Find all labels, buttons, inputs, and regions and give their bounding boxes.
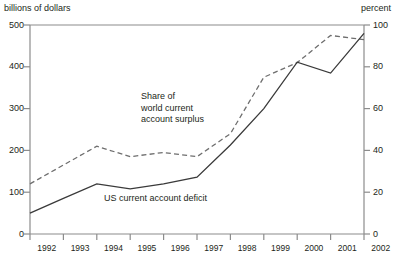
right-axis-tick-label: 20 — [373, 188, 395, 197]
annotation-us-current-account-deficit: US current account deficit — [104, 193, 207, 205]
x-axis-tick-label: 1996 — [163, 244, 197, 253]
x-axis-tick-label: 1995 — [130, 244, 164, 253]
right-axis-tick-label: 100 — [373, 21, 395, 30]
plot-area — [0, 0, 395, 274]
left-axis-tick-label: 300 — [0, 104, 24, 113]
annotation-share-line-3: account surplus — [141, 114, 204, 126]
x-axis-tick-label: 2001 — [330, 244, 364, 253]
x-axis-tick-label: 2000 — [297, 244, 331, 253]
right-axis-ticks — [364, 25, 370, 234]
chart-figure: billions of dollars percent — [0, 0, 395, 274]
left-axis-tick-label: 0 — [0, 230, 24, 239]
left-axis-ticks — [24, 25, 30, 234]
x-axis-ticks — [30, 234, 364, 240]
annotation-share-line-2: world current — [141, 103, 204, 115]
right-axis-tick-label: 40 — [373, 146, 395, 155]
right-axis-tick-label: 0 — [373, 230, 395, 239]
left-axis-tick-label: 400 — [0, 62, 24, 71]
x-axis-tick-label: 1997 — [197, 244, 231, 253]
right-axis-tick-label: 80 — [373, 62, 395, 71]
x-axis-tick-label: 2002 — [364, 244, 395, 253]
annotation-share-of-world-surplus: Share of world current account surplus — [141, 91, 204, 126]
x-axis-tick-label: 1998 — [230, 244, 264, 253]
left-axis-tick-label: 100 — [0, 188, 24, 197]
x-axis-tick-label: 1994 — [97, 244, 131, 253]
x-axis-tick-label: 1999 — [264, 244, 298, 253]
annotation-share-line-1: Share of — [141, 91, 204, 103]
left-axis-tick-label: 500 — [0, 21, 24, 30]
left-axis-tick-label: 200 — [0, 146, 24, 155]
right-axis-tick-label: 60 — [373, 104, 395, 113]
x-axis-tick-label: 1992 — [30, 244, 64, 253]
x-axis-tick-label: 1993 — [63, 244, 97, 253]
